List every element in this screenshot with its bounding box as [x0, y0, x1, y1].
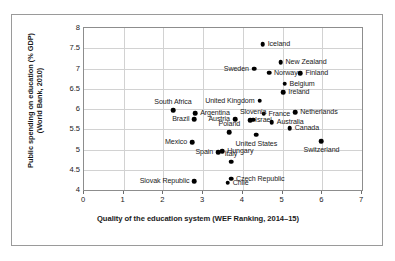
data-point — [319, 139, 324, 144]
data-point — [260, 42, 265, 47]
data-point-label: Mexico — [165, 138, 187, 146]
x-axis-tick-mark — [83, 191, 84, 194]
data-point — [216, 150, 221, 155]
data-point — [298, 71, 303, 76]
y-axis-tick-label: 6.5 — [54, 83, 80, 92]
data-point — [282, 82, 287, 87]
y-axis-tick-labels: 44.555.566.577.58 — [52, 27, 80, 191]
x-axis-tick-label: 6 — [311, 195, 331, 204]
data-point-label: Norway — [274, 69, 298, 77]
x-axis-tick-label: 0 — [73, 195, 93, 204]
y-axis-tick-label: 4.5 — [54, 164, 80, 173]
x-axis-tick-mark — [123, 191, 124, 194]
data-point-label: United Kingdom — [205, 97, 254, 105]
data-point — [192, 179, 197, 184]
gridline-vertical — [163, 28, 164, 190]
data-point-label: Italy — [225, 150, 238, 158]
data-point-label: Slovak Republic — [140, 177, 190, 185]
x-axis-tick-label: 1 — [113, 195, 133, 204]
data-point — [287, 126, 292, 131]
data-point-label: Iceland — [268, 40, 290, 48]
y-axis-title: Public spending on education (% GDP) (Wo… — [26, 5, 45, 195]
data-point — [190, 140, 195, 145]
gridline-horizontal — [84, 48, 362, 49]
scatter-plot-area: IcelandSwedenNew ZealandNorwayFinlandBel… — [83, 27, 363, 191]
data-point-label: Spain — [195, 148, 213, 156]
x-axis-tick-mark — [202, 191, 203, 194]
chart-figure: Public spending on education (% GDP) (Wo… — [11, 14, 383, 246]
data-point-label: Canada — [295, 124, 319, 132]
x-axis-tick-labels: 01234567 — [83, 195, 363, 209]
y-axis-tick-label: 5 — [54, 144, 80, 153]
gridline-horizontal — [84, 170, 362, 171]
data-point-label: Ireland — [288, 88, 309, 96]
x-axis-tick-mark — [282, 191, 283, 194]
data-point — [278, 60, 283, 65]
data-point — [171, 108, 176, 113]
y-axis-title-line1: Public spending on education (% GDP) — [26, 5, 35, 195]
gridline-vertical — [124, 28, 125, 190]
y-axis-tick-label: 5.5 — [54, 124, 80, 133]
data-point — [293, 110, 298, 115]
data-point-label: Chile — [233, 179, 249, 187]
x-axis-tick-mark — [242, 191, 243, 194]
data-point — [248, 118, 253, 123]
data-point-label: New Zealand — [286, 58, 327, 66]
data-point-label: Sweden — [224, 65, 249, 73]
y-axis-title-line2: (World Bank, 2010) — [35, 5, 44, 195]
data-point — [229, 159, 234, 164]
data-point-label: South Africa — [154, 98, 191, 106]
gridline-horizontal — [84, 129, 362, 130]
data-point-label: Belgium — [290, 80, 315, 88]
x-axis-tick-mark — [321, 191, 322, 194]
x-axis-tick-mark — [361, 191, 362, 194]
data-point — [193, 111, 198, 116]
data-point — [252, 66, 257, 71]
x-axis-title: Quality of the education system (WEF Ran… — [12, 214, 384, 223]
y-axis-tick-label: 8 — [54, 23, 80, 32]
x-axis-tick-label: 2 — [152, 195, 172, 204]
y-axis-tick-label: 4 — [54, 185, 80, 194]
data-point-label: Switzerland — [304, 146, 340, 154]
gridline-horizontal — [84, 89, 362, 90]
data-point — [267, 70, 272, 75]
x-axis-tick-label: 3 — [192, 195, 212, 204]
y-axis-tick-label: 6 — [54, 104, 80, 113]
data-point — [225, 180, 230, 185]
data-point — [270, 120, 275, 125]
x-axis-tick-mark — [162, 191, 163, 194]
data-point — [254, 132, 259, 137]
data-point — [281, 90, 286, 95]
y-axis-tick-label: 7.5 — [54, 43, 80, 52]
x-axis-tick-label: 7 — [351, 195, 371, 204]
x-axis-tick-label: 5 — [272, 195, 292, 204]
data-point-label: Finland — [305, 69, 328, 77]
data-point — [227, 130, 232, 135]
data-point-label: Slovenia — [240, 108, 267, 116]
data-point — [192, 117, 197, 122]
data-point-label: Brazil — [172, 115, 189, 123]
y-axis-tick-label: 7 — [54, 63, 80, 72]
data-point — [257, 99, 262, 104]
data-point-label: Poland — [219, 120, 241, 128]
data-point-label: Netherlands — [300, 108, 337, 116]
x-axis-tick-label: 4 — [232, 195, 252, 204]
